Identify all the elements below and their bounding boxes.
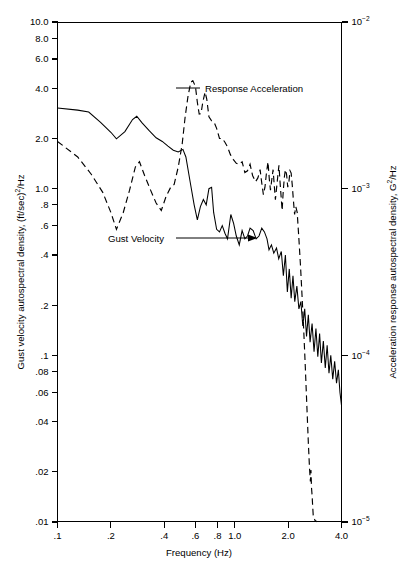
left-tick-label: 2.0 <box>35 133 48 144</box>
left-tick-label: 8.0 <box>35 33 48 44</box>
gust-velocity-label: Gust Velocity <box>108 233 164 244</box>
right-tick-mantissa: 10 <box>352 350 363 361</box>
right-tick-label: 10−3 <box>352 182 370 194</box>
right-tick-exponent: −4 <box>362 349 370 356</box>
right-tick-label: 10−4 <box>352 349 370 361</box>
series-response-acceleration <box>58 81 317 522</box>
x-tick-label: .8 <box>214 530 222 541</box>
response-acceleration-label: Response Acceleration <box>205 83 303 94</box>
right-axis-title-main: Acceleration response autospectral densi… <box>387 184 398 379</box>
x-tick-label: .2 <box>107 530 115 541</box>
left-tick-label: .02 <box>35 466 48 477</box>
series-layer <box>58 81 342 522</box>
left-tick-label: .2 <box>41 300 49 311</box>
right-axis-title: Acceleration response autospectral densi… <box>386 165 398 378</box>
x-tick-label: .6 <box>191 530 199 541</box>
right-axis-ticks: 10−210−310−410−5 <box>342 15 370 527</box>
left-axis-title-tail: /Hz <box>15 174 26 189</box>
right-tick-exponent: −5 <box>362 515 370 522</box>
left-tick-label: 1.0 <box>35 183 48 194</box>
left-tick-label: .08 <box>35 366 48 377</box>
figure-root: 10.08.06.04.02.01.0.8.6.4.2.1.08.06.04.0… <box>0 0 407 566</box>
left-tick-label: 10.0 <box>30 16 49 27</box>
right-tick-label: 10−2 <box>352 15 370 27</box>
svg-text:Gust velocity autospectral den: Gust velocity autospectral density, (ft/… <box>14 174 26 369</box>
annotation-response-acceleration: Response Acceleration <box>176 83 303 94</box>
left-tick-label: .1 <box>41 350 49 361</box>
right-tick-mantissa: 10 <box>352 183 363 194</box>
left-tick-label: 6.0 <box>35 53 48 64</box>
x-tick-label: 4.0 <box>335 530 348 541</box>
left-tick-label: .8 <box>41 199 49 210</box>
bottom-axis-ticks: .1.2.4.6.81.02.04.0 <box>54 522 349 541</box>
left-tick-label: .6 <box>41 220 49 231</box>
left-tick-label: .01 <box>35 516 48 527</box>
x-tick-label: .1 <box>54 530 62 541</box>
x-axis-title: Frequency (Hz) <box>166 547 232 558</box>
right-tick-mantissa: 10 <box>352 16 363 27</box>
left-axis-title: Gust velocity autospectral density, (ft/… <box>14 174 26 369</box>
series-gust-velocity <box>58 108 342 406</box>
right-tick-label: 10−5 <box>352 515 370 527</box>
gust-velocity-arrowhead <box>248 235 257 242</box>
autospectral-density-chart: 10.08.06.04.02.01.0.8.6.4.2.1.08.06.04.0… <box>0 0 407 566</box>
annotation-gust-velocity: Gust Velocity <box>108 233 257 244</box>
left-axis-title-main: Gust velocity autospectral density, (ft/… <box>15 193 26 370</box>
left-tick-label: .06 <box>35 387 48 398</box>
left-tick-label: .4 <box>41 249 49 260</box>
left-axis-ticks: 10.08.06.04.02.01.0.8.6.4.2.1.08.06.04.0… <box>30 16 58 527</box>
left-tick-label: 4.0 <box>35 83 48 94</box>
svg-text:Acceleration response autospec: Acceleration response autospectral densi… <box>386 165 398 378</box>
plot-frame <box>58 22 342 522</box>
right-tick-mantissa: 10 <box>352 516 363 527</box>
x-tick-label: .4 <box>160 530 168 541</box>
left-tick-label: .04 <box>35 416 48 427</box>
x-tick-label: 1.0 <box>228 530 241 541</box>
x-tick-label: 2.0 <box>282 530 295 541</box>
right-tick-exponent: −3 <box>362 182 370 189</box>
right-axis-title-tail: /Hz <box>387 165 398 180</box>
right-tick-exponent: −2 <box>362 15 370 22</box>
